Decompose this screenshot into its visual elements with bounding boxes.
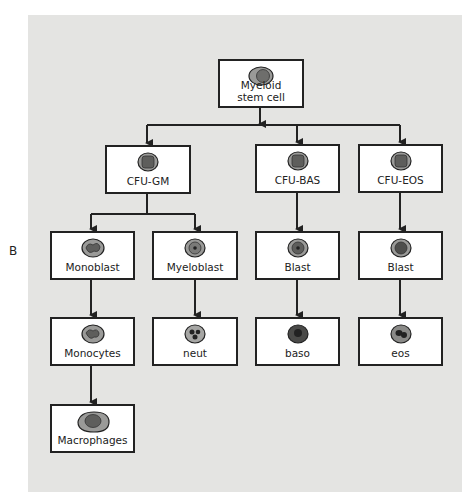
node-macrophages: Macrophages	[50, 404, 135, 453]
node-label: Blast	[360, 261, 441, 273]
node-label: Blast	[257, 261, 338, 273]
monoblast-cell-icon	[81, 238, 105, 258]
node-monoblast: Monoblast	[50, 231, 135, 280]
node-label-line1: Myeloid	[220, 79, 302, 91]
monocyte-cell-icon	[81, 324, 105, 344]
node-cfu-bas: CFU-BAS	[255, 144, 340, 193]
node-label: CFU-GM	[107, 175, 189, 187]
node-blast-bas: Blast	[255, 231, 340, 280]
basophil-cell-icon	[287, 324, 309, 344]
node-myeloblast: Myeloblast	[152, 231, 238, 280]
node-myeloid-stem-cell: Myeloid stem cell	[218, 59, 304, 108]
node-blast-eos: Blast	[358, 231, 443, 280]
node-label: CFU-BAS	[257, 174, 338, 186]
eosinophil-cell-icon	[390, 324, 412, 344]
node-label: baso	[257, 347, 338, 359]
progenitor-cell-icon	[137, 152, 159, 172]
node-baso: baso	[255, 317, 340, 366]
node-cfu-gm: CFU-GM	[105, 145, 191, 194]
node-label: CFU-EOS	[360, 174, 441, 186]
node-label: Myeloblast	[154, 261, 236, 273]
myeloblast-cell-icon	[184, 238, 206, 258]
node-label: Monoblast	[52, 261, 133, 273]
node-label: Monocytes	[52, 347, 133, 359]
neutrophil-cell-icon	[184, 324, 206, 344]
blast-cell-icon	[287, 238, 309, 258]
node-label: Macrophages	[52, 434, 133, 446]
node-neut: neut	[152, 317, 238, 366]
node-label-line2: stem cell	[220, 91, 302, 103]
macrophage-cell-icon	[75, 410, 111, 434]
node-label: neut	[154, 347, 236, 359]
blast-cell-icon	[390, 238, 412, 258]
node-eos: eos	[358, 317, 443, 366]
node-cfu-eos: CFU-EOS	[358, 144, 443, 193]
node-label: eos	[360, 347, 441, 359]
progenitor-cell-icon	[390, 151, 412, 171]
progenitor-cell-icon	[287, 151, 309, 171]
node-monocytes: Monocytes	[50, 317, 135, 366]
